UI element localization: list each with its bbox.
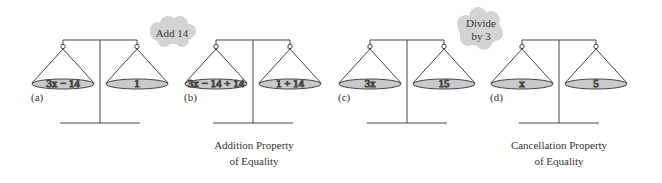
caption-line2: of Equality [229,155,278,167]
addition-property-caption: Addition Property of Equality [194,137,314,169]
right-pan-expression: 1 [134,77,140,89]
divide-by-3-label: Divide by 3 [459,17,503,43]
divide-line2: by 3 [471,30,490,42]
scale-label-c: (c) [338,91,350,103]
scale-c: 3x15 [339,40,475,123]
left-pan-expression: 3x [365,77,377,89]
left-pan-expression: x [519,77,525,89]
add-14-label: Add 14 [150,27,194,40]
caption-line1: Cancellation Property [511,139,607,151]
divide-line1: Divide [466,17,496,29]
scale-label-d: (d) [490,91,503,103]
scale-d: x5 [491,40,627,123]
caption-line1: Addition Property [214,139,294,151]
caption-line2: of Equality [534,155,583,167]
scale-a: 3x − 141 [32,40,168,123]
scale-label-b: (b) [184,91,197,103]
right-pan-expression: 15 [439,77,451,89]
scale-label-a: (a) [31,91,43,103]
left-pan-expression: 3x − 14 + 14 [188,77,245,89]
right-pan-expression: 1 + 14 [276,77,305,89]
scale-b: 3x − 14 + 141 + 14 [185,40,321,123]
right-pan-expression: 5 [593,77,599,89]
left-pan-expression: 3x − 14 [46,77,80,89]
cancellation-property-caption: Cancellation Property of Equality [499,137,619,169]
